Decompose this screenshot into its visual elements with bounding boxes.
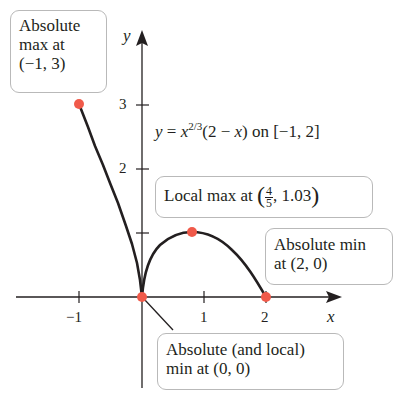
label-line: max at — [19, 35, 98, 54]
point-absolute-min — [261, 292, 271, 302]
equation-lhs: y — [155, 122, 163, 141]
fraction: 45 — [265, 186, 273, 209]
label-line: Absolute (and local) — [166, 340, 335, 359]
point-origin-min — [137, 292, 147, 302]
equation-var: x — [235, 122, 243, 141]
y-axis-label: y — [123, 26, 131, 46]
equation-tail: ) on [−1, 2] — [242, 122, 320, 141]
point-absolute-max — [74, 99, 84, 109]
x-tick-label-2: 2 — [261, 309, 269, 326]
fraction-denominator: 5 — [265, 198, 273, 209]
x-tick-label-1: 1 — [200, 309, 208, 326]
label-text: , 1.03 — [273, 186, 311, 205]
label-line: Absolute — [19, 16, 98, 35]
y-tick-label-3: 3 — [119, 96, 127, 113]
curve-right-branch — [142, 232, 266, 297]
function-equation: y = x2/3(2 − x) on [−1, 2] — [155, 120, 320, 142]
y-tick-label-2: 2 — [119, 160, 127, 177]
label-line: (−1, 3) — [19, 54, 98, 73]
equation-exponent: 2/3 — [188, 120, 202, 132]
label-line: at (2, 0) — [274, 254, 384, 273]
label-absolute-min-right: Absolute min at (2, 0) — [265, 228, 393, 285]
equation-equals: = — [163, 122, 181, 141]
paren-close: ) — [311, 182, 319, 208]
curve-left-branch — [79, 104, 142, 297]
label-absolute-max: Absolute max at (−1, 3) — [10, 10, 107, 93]
equation-rest: (2 − — [202, 122, 234, 141]
label-absolute-min-origin: Absolute (and local) min at (0, 0) — [157, 333, 344, 390]
label-line: Absolute min — [274, 235, 384, 254]
x-tick-label-neg1: −1 — [66, 309, 82, 326]
label-line: min at (0, 0) — [166, 359, 335, 378]
label-text: Local max at — [164, 186, 257, 205]
label-local-max: Local max at (45, 1.03) — [155, 176, 373, 218]
paren-open: ( — [257, 182, 265, 208]
point-local-max — [187, 227, 197, 237]
x-axis-label: x — [327, 307, 335, 327]
origin-leader-line — [144, 299, 173, 330]
